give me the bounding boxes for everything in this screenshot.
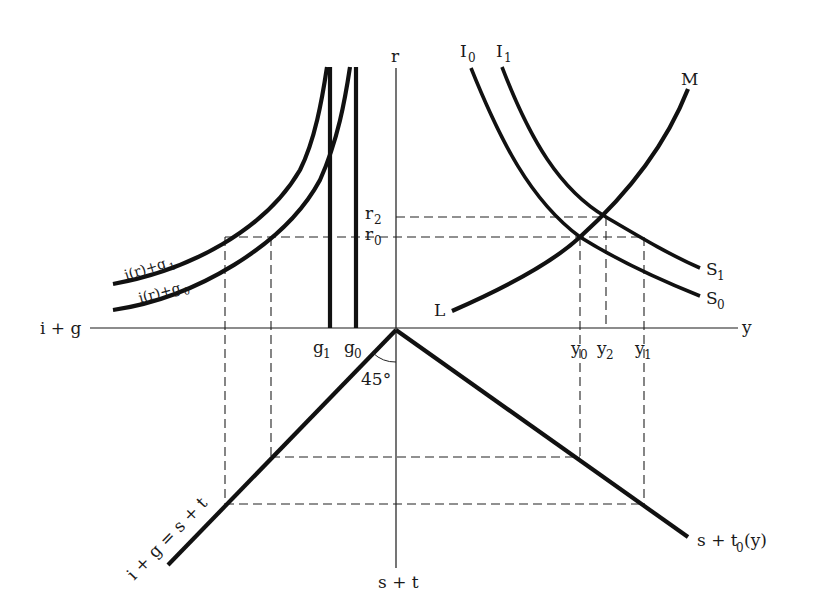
curve-I0-S0 bbox=[471, 68, 700, 296]
line-45-degree bbox=[168, 330, 396, 565]
svg-text:0: 0 bbox=[354, 347, 362, 361]
svg-text:0: 0 bbox=[736, 541, 744, 555]
svg-text:r: r bbox=[365, 224, 374, 244]
tick-y0: y 0 bbox=[570, 338, 588, 362]
svg-text:s + t: s + t bbox=[697, 530, 738, 550]
tick-y1: y 1 bbox=[634, 338, 652, 362]
svg-text:0: 0 bbox=[717, 298, 725, 312]
svg-text:(y): (y) bbox=[744, 530, 767, 550]
svg-text:0: 0 bbox=[468, 51, 476, 65]
label-45-degrees: 45° bbox=[361, 369, 391, 389]
svg-text:2: 2 bbox=[374, 213, 382, 227]
svg-text:I: I bbox=[460, 41, 467, 61]
curve-LM bbox=[452, 89, 688, 311]
svg-text:1: 1 bbox=[717, 269, 725, 283]
is-lm-four-quadrant-diagram: r s + t i + g y r 2 r 0 y 0 y 2 y 1 g 1 … bbox=[0, 0, 814, 608]
axis-label-y: y bbox=[741, 317, 752, 337]
label-s-plus-t0-y: s + t 0 (y) bbox=[697, 530, 767, 555]
axis-label-i-plus-g: i + g bbox=[40, 318, 81, 338]
svg-text:0: 0 bbox=[374, 234, 382, 248]
label-S1: S 1 bbox=[706, 259, 725, 283]
tick-r0: r 0 bbox=[365, 224, 382, 248]
tick-y2: y 2 bbox=[596, 338, 614, 362]
svg-text:2: 2 bbox=[606, 348, 614, 362]
angle-arc bbox=[373, 353, 396, 362]
svg-text:S: S bbox=[706, 288, 718, 308]
tick-g0: g 0 bbox=[344, 337, 362, 361]
svg-text:I: I bbox=[496, 41, 503, 61]
svg-text:1: 1 bbox=[644, 348, 652, 362]
axis-label-s-plus-t: s + t bbox=[378, 572, 419, 592]
label-L: L bbox=[434, 300, 445, 320]
label-i-r-plus-g0: i(r)+g 0 bbox=[137, 277, 192, 309]
label-I1: I 1 bbox=[496, 41, 512, 65]
axis-label-r: r bbox=[391, 46, 400, 66]
svg-text:r: r bbox=[365, 203, 374, 223]
curve-i-r-plus-g1 bbox=[113, 67, 327, 284]
curve-I1-S1 bbox=[502, 67, 700, 268]
label-S0: S 0 bbox=[706, 288, 725, 312]
svg-text:0: 0 bbox=[580, 348, 588, 362]
label-i-plus-g-equals-s-plus-t: i + g = s + t bbox=[122, 493, 211, 584]
tick-g1: g 1 bbox=[313, 337, 331, 361]
svg-text:i(r)+g: i(r)+g bbox=[137, 279, 183, 306]
label-I0: I 0 bbox=[460, 41, 476, 65]
svg-text:1: 1 bbox=[504, 51, 512, 65]
svg-text:S: S bbox=[706, 259, 718, 279]
label-M: M bbox=[681, 69, 698, 89]
svg-text:1: 1 bbox=[323, 347, 331, 361]
